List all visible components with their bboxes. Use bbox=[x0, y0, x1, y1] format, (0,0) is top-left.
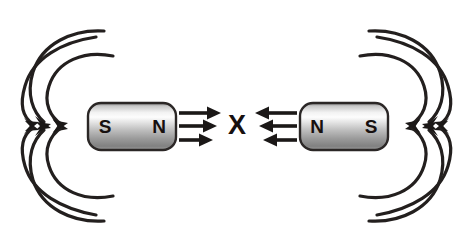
force-arrow-head bbox=[207, 107, 221, 120]
force-arrow-group-left bbox=[179, 107, 221, 147]
force-arrow-head bbox=[259, 120, 273, 133]
right-magnet[interactable]: N S bbox=[300, 103, 388, 150]
field-line-arrowhead bbox=[24, 121, 39, 134]
magnet-field-diagram: S N N S X bbox=[0, 0, 473, 249]
force-arrow-head bbox=[263, 134, 277, 147]
diagram-canvas: S N N S X bbox=[0, 0, 473, 249]
force-arrow-head bbox=[203, 120, 217, 133]
force-arrow-head bbox=[255, 107, 269, 120]
left-magnet-north-pole-label: N bbox=[152, 116, 166, 137]
field-line-arrowhead bbox=[52, 120, 68, 134]
center-x-label: X bbox=[228, 110, 246, 140]
right-magnet-north-pole-label: N bbox=[310, 116, 324, 137]
field-line-arc bbox=[22, 37, 96, 124]
right-magnet-south-pole-label: S bbox=[365, 116, 378, 137]
left-magnet-south-pole-label: S bbox=[99, 116, 112, 137]
field-line-arc bbox=[22, 128, 96, 215]
left-magnet[interactable]: S N bbox=[88, 103, 176, 150]
force-arrow-group-right bbox=[255, 107, 297, 147]
force-arrow-head bbox=[199, 134, 213, 147]
field-line-arrowhead bbox=[434, 121, 449, 134]
field-line-arrowhead bbox=[405, 120, 421, 134]
